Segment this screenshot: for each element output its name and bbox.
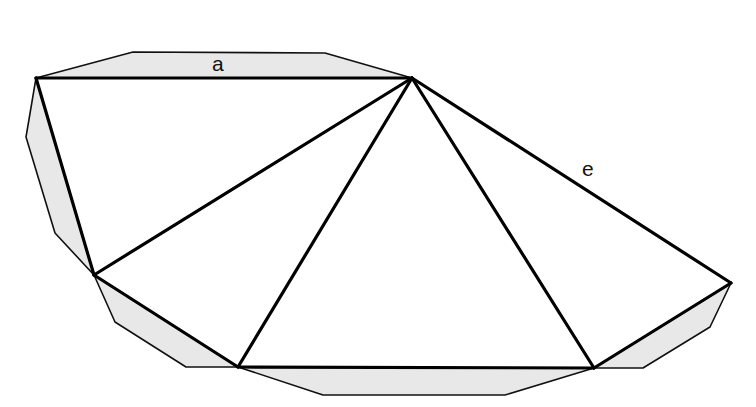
edge-diag-1 [94, 78, 412, 275]
edge-diag-2 [238, 78, 412, 367]
flap-top [36, 52, 412, 78]
label-e: e [582, 157, 594, 180]
edge-e [412, 78, 731, 283]
flap-bottom [238, 367, 594, 395]
edge-bottom [238, 367, 594, 368]
edge-diag-3 [412, 78, 594, 368]
net-diagram: a e [0, 0, 756, 407]
label-a: a [212, 52, 224, 75]
